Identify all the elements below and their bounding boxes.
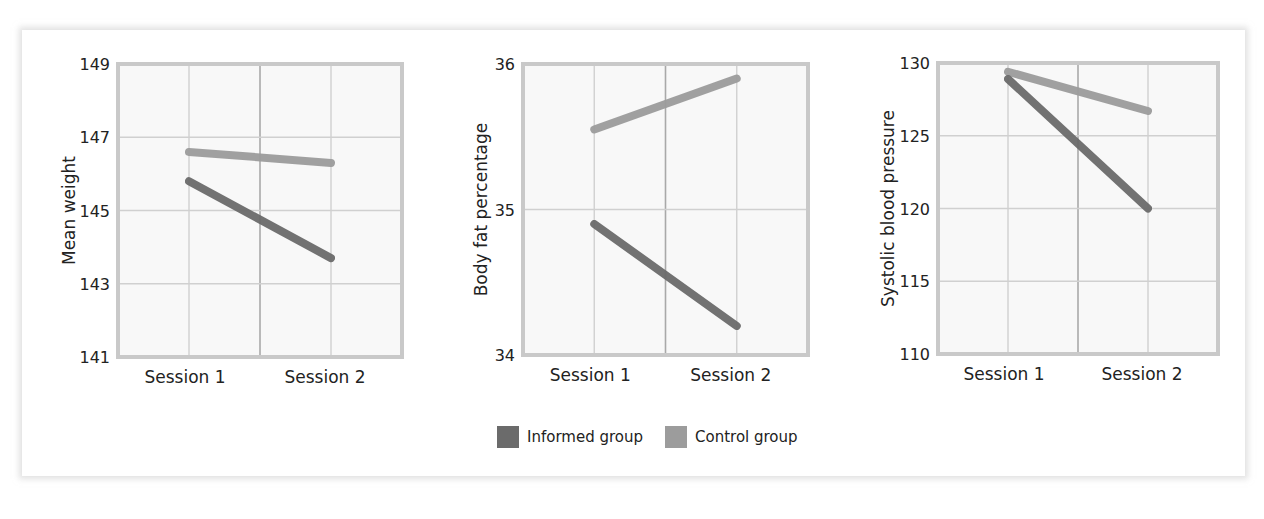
y-tick-label: 149 [79, 55, 110, 74]
legend-label-control: Control group [695, 428, 798, 446]
x-tick-label: Session 1 [963, 364, 1044, 384]
legend-swatch-informed [497, 426, 519, 448]
legend-item-control: Control group [665, 426, 798, 448]
x-tick-label: Session 1 [550, 365, 631, 385]
y-tick-label: 147 [79, 128, 110, 147]
y-tick-label: 115 [899, 272, 930, 291]
y-tick-label: 120 [899, 200, 930, 219]
chart-panel-1: 141143145147149Session 1Session 2Mean we… [59, 55, 402, 387]
y-tick-label: 143 [79, 275, 110, 294]
legend-item-informed: Informed group [497, 426, 643, 448]
legend-label-informed: Informed group [527, 428, 643, 446]
y-axis-label: Systolic blood pressure [878, 110, 898, 307]
x-tick-label: Session 1 [144, 367, 225, 387]
x-tick-label: Session 2 [1101, 364, 1182, 384]
y-axis-label: Body fat percentage [471, 123, 491, 297]
y-axis-label: Mean weight [59, 156, 79, 265]
x-tick-label: Session 2 [690, 365, 771, 385]
legend-swatch-control [665, 426, 687, 448]
chart-panel-2: 343536Session 1Session 2Body fat percent… [471, 55, 808, 385]
legend: Informed group Control group [497, 426, 820, 448]
y-tick-label: 125 [899, 127, 930, 146]
y-tick-label: 34 [495, 346, 515, 365]
y-tick-label: 130 [899, 54, 930, 73]
y-tick-label: 145 [79, 202, 110, 221]
y-tick-label: 36 [495, 55, 515, 74]
y-tick-label: 35 [495, 201, 515, 220]
y-tick-label: 110 [899, 345, 930, 364]
x-tick-label: Session 2 [284, 367, 365, 387]
chart-panel-3: 110115120125130Session 1Session 2Systoli… [878, 54, 1218, 384]
y-tick-label: 141 [79, 348, 110, 367]
